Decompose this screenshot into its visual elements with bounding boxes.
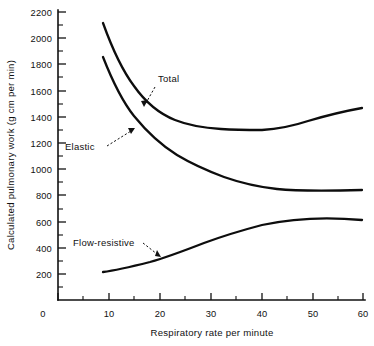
pulmonary-work-chart: 2200 2000 1800 1600 1400 1200 1000 800 6… [0,0,374,346]
chart-figure: 2200 2000 1800 1600 1400 1200 1000 800 6… [0,0,374,346]
series-label-elastic: Elastic [65,141,95,152]
x-tick-label: 40 [257,309,268,319]
x-tick-label: 20 [155,309,166,319]
x-tick-label: 0 [40,309,45,319]
y-tick-label: 1600 [31,87,52,97]
y-tick-label: 2000 [31,34,52,44]
x-axis-title: Respiratory rate per minute [151,327,274,338]
series-label-total: Total [158,73,179,84]
x-tick-label: 30 [206,309,217,319]
y-tick-label: 1400 [31,113,52,123]
y-tick-label: 600 [36,218,52,228]
y-tick-label: 1800 [31,60,52,70]
y-tick-label: 1200 [31,139,52,149]
x-tick-label: 60 [358,309,369,319]
y-tick-label: 400 [36,244,52,254]
x-tick-label: 50 [308,309,319,319]
y-tick-label: 2200 [31,8,52,18]
y-tick-label: 200 [36,270,52,280]
series-label-flow-resistive: Flow-resistive [73,237,135,248]
y-tick-label: 800 [36,191,52,201]
x-tick-label: 10 [104,309,115,319]
y-axis-title: Calculated pulmonary work (g cm per min) [5,60,16,250]
y-tick-label: 1000 [31,165,52,175]
chart-background [0,0,374,346]
